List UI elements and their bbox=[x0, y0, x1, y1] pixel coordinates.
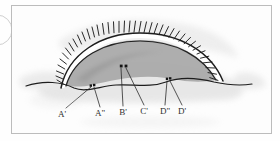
point-b-prime bbox=[120, 65, 123, 68]
label-a-prime: A' bbox=[58, 109, 66, 119]
label-c-prime: C' bbox=[140, 106, 148, 116]
label-a-double-prime: A" bbox=[95, 108, 105, 118]
label-d-double-prime: D" bbox=[160, 106, 170, 116]
point-d-prime bbox=[169, 77, 171, 79]
point-a-prime bbox=[90, 84, 92, 86]
sketch-illustration: A' A" B' C' D" D' bbox=[0, 0, 280, 141]
label-d-prime: D' bbox=[178, 106, 186, 116]
point-d-double-prime bbox=[166, 78, 168, 80]
label-b-prime: B' bbox=[119, 107, 127, 117]
point-a-double-prime bbox=[93, 84, 95, 86]
figure-canvas: A' A" B' C' D" D' bbox=[0, 0, 280, 141]
point-c-prime bbox=[125, 65, 128, 68]
